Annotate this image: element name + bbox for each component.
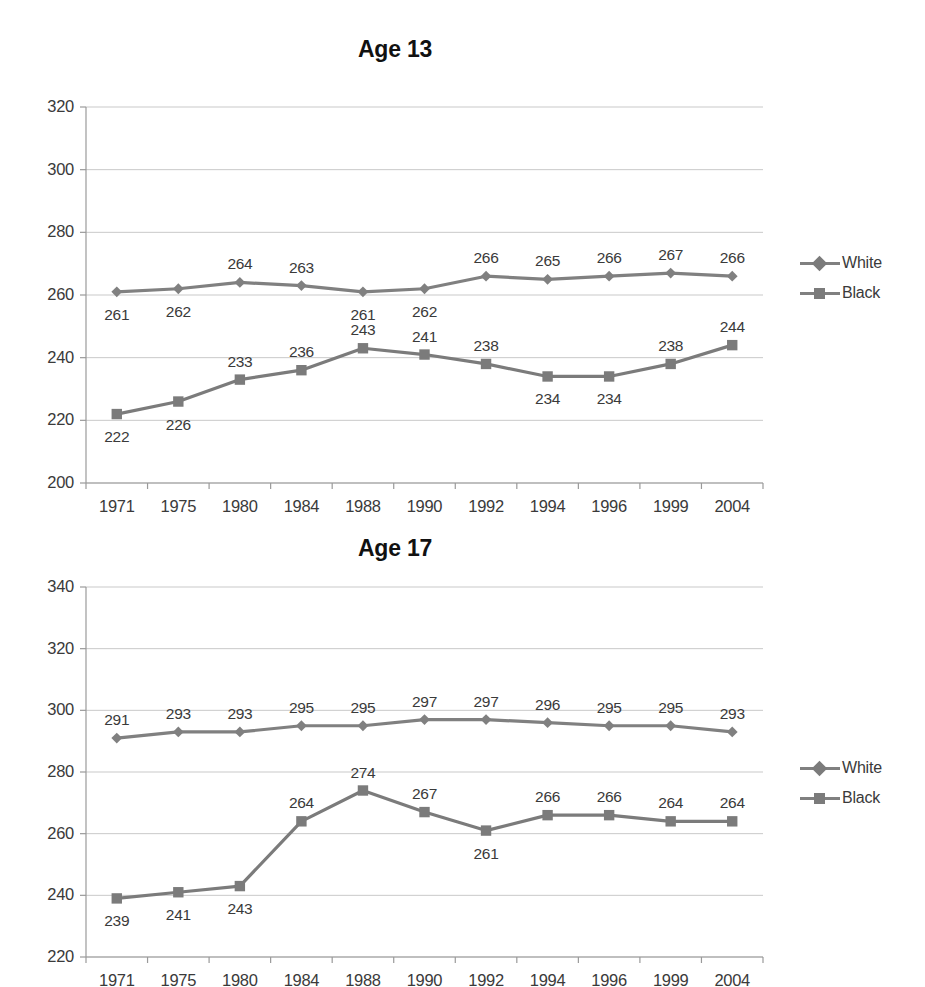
data-label: 243 [214,900,266,918]
legend-marker-square-icon [800,285,840,301]
marker-diamond [111,286,122,297]
marker-square [419,807,429,817]
data-label: 261 [91,306,143,324]
marker-diamond [358,720,369,731]
data-label: 293 [214,705,266,723]
data-label: 264 [275,794,327,812]
y-axis-tick-label: 300 [28,700,74,719]
y-axis-tick-label: 280 [28,762,74,781]
data-label: 274 [337,764,389,782]
marker-diamond [604,271,615,282]
data-label: 266 [522,788,574,806]
x-axis-tick-label: 1984 [271,497,331,516]
legend-item-white[interactable]: White [800,248,925,278]
x-axis-tick-label: 1996 [579,497,639,516]
legend-label: White [840,759,882,777]
marker-diamond [727,271,738,282]
data-label: 264 [214,255,266,273]
x-axis-tick-label: 1999 [641,971,701,987]
marker-square [112,409,122,419]
data-label: 234 [583,390,635,408]
y-axis-tick-label: 240 [28,885,74,904]
legend-age-13: WhiteBlack [800,248,925,308]
marker-square [296,816,306,826]
y-axis-tick-label: 220 [28,947,74,966]
data-label: 264 [706,794,758,812]
chart-age-13: Age 13 WhiteBlack 2002202402602803003201… [0,0,925,525]
data-label: 295 [337,699,389,717]
data-label: 297 [460,693,512,711]
data-label: 262 [152,303,204,321]
marker-square [419,349,429,359]
x-axis-tick-label: 1992 [456,971,516,987]
data-label: 266 [460,249,512,267]
x-axis-tick-label: 1990 [395,971,455,987]
marker-square [481,359,491,369]
data-label: 266 [583,249,635,267]
data-label: 295 [583,699,635,717]
series-line-black [117,791,732,899]
legend-label: Black [840,789,880,807]
x-axis-tick-label: 1999 [641,497,701,516]
x-axis-tick-label: 1980 [210,971,270,987]
marker-square [542,371,552,381]
x-axis-tick-label: 1992 [456,497,516,516]
x-axis-tick-label: 1990 [395,497,455,516]
marker-square [665,816,675,826]
x-axis-tick-label: 1975 [148,971,208,987]
x-axis-tick-label: 2004 [702,497,762,516]
marker-diamond [481,271,492,282]
data-label: 241 [152,906,204,924]
marker-diamond [665,268,676,279]
legend-label: White [840,254,882,272]
marker-square [112,893,122,903]
marker-diamond [542,274,553,285]
marker-square [296,365,306,375]
y-axis-tick-label: 240 [28,348,74,367]
marker-square [235,881,245,891]
marker-square [481,825,491,835]
data-label: 266 [583,788,635,806]
legend-marker-diamond-icon [800,760,840,776]
x-axis-tick-label: 1994 [518,497,578,516]
x-axis-tick-label: 1988 [333,497,393,516]
marker-square [235,374,245,384]
marker-diamond [665,720,676,731]
legend-age-17: WhiteBlack [800,753,925,813]
data-label: 226 [152,416,204,434]
data-label: 267 [399,785,451,803]
y-axis-tick-label: 320 [28,639,74,658]
y-axis-tick-label: 260 [28,285,74,304]
marker-diamond [296,280,307,291]
legend-item-black[interactable]: Black [800,783,925,813]
marker-diamond [481,714,492,725]
data-label: 293 [706,705,758,723]
marker-square [173,887,183,897]
marker-diamond [173,727,184,738]
legend-item-white[interactable]: White [800,753,925,783]
marker-diamond [604,720,615,731]
y-axis-tick-label: 220 [28,410,74,429]
y-axis-tick-label: 280 [28,222,74,241]
legend-marker-diamond-icon [800,255,840,271]
y-axis-tick-label: 320 [28,97,74,116]
y-axis-tick-label: 200 [28,473,74,492]
marker-diamond [234,727,245,738]
data-label: 236 [275,343,327,361]
data-label: 234 [522,390,574,408]
data-label: 267 [645,246,697,264]
marker-square [727,816,737,826]
data-label: 233 [214,353,266,371]
marker-square [604,371,614,381]
legend-item-black[interactable]: Black [800,278,925,308]
x-axis-tick-label: 1971 [87,971,147,987]
chart-age-17: Age 17 WhiteBlack 2202402602803003203401… [0,525,925,987]
data-label: 264 [645,794,697,812]
data-label: 295 [275,699,327,717]
marker-diamond [358,286,369,297]
y-axis-tick-label: 300 [28,160,74,179]
marker-square [665,359,675,369]
marker-diamond [419,283,430,294]
x-axis-tick-label: 1996 [579,971,639,987]
marker-square [727,340,737,350]
